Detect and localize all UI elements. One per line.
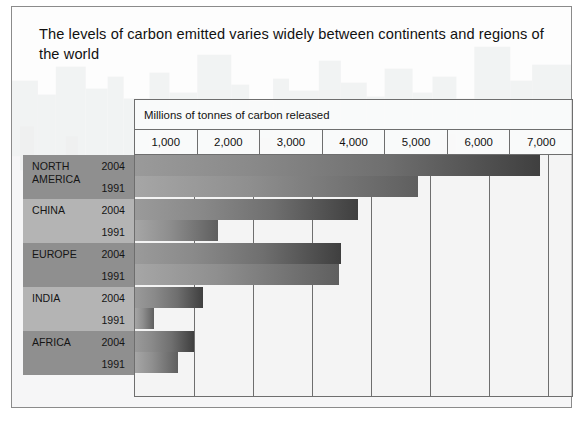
- bar-row-india-1991: [135, 308, 572, 329]
- row-label-africa: AFRICA 2004 1991: [23, 331, 134, 375]
- bar-row-europe-1991: [135, 264, 572, 285]
- row-label-column: NORTH AMERICA 2004 1991 CHINA 2004 1991 …: [23, 155, 134, 375]
- x-axis-label: Millions of tonnes of carbon released: [135, 109, 330, 121]
- plot-area: [134, 155, 573, 397]
- x-tick-5: 5,000: [384, 130, 447, 154]
- row-label-north-america: NORTH AMERICA 2004 1991: [23, 155, 134, 199]
- row-label-year-1991: 1991: [101, 182, 125, 194]
- bar-row-china-1991: [135, 220, 572, 241]
- row-label-china: CHINA 2004 1991: [23, 199, 134, 243]
- row-label-year-1991: 1991: [101, 358, 125, 370]
- chart-page: The levels of carbon emitted varies wide…: [0, 0, 583, 431]
- bar-row-africa-1991: [135, 352, 572, 373]
- bar-row-africa-2004: [135, 331, 572, 352]
- bar-north-america-2004: [135, 155, 540, 176]
- row-label-continent: AFRICA: [32, 336, 94, 349]
- row-label-year-1991: 1991: [101, 226, 125, 238]
- row-label-year-2004: 2004: [101, 204, 125, 216]
- bar-europe-2004: [135, 243, 341, 264]
- x-tick-1: 1,000: [135, 130, 197, 154]
- row-label-continent: INDIA: [32, 292, 94, 305]
- row-label-year-1991: 1991: [101, 270, 125, 282]
- row-label-year-1991: 1991: [101, 314, 125, 326]
- chart-container: Millions of tonnes of carbon released 1,…: [11, 99, 573, 397]
- bar-row-india-2004: [135, 287, 572, 308]
- bar-europe-1991: [135, 264, 339, 285]
- plot-body: NORTH AMERICA 2004 1991 CHINA 2004 1991 …: [11, 155, 573, 397]
- x-tick-2: 2,000: [197, 130, 260, 154]
- x-tick-7: 7,000: [509, 130, 572, 154]
- row-label-india: INDIA 2004 1991: [23, 287, 134, 331]
- bar-africa-1991: [135, 352, 178, 373]
- x-tick-3: 3,000: [259, 130, 322, 154]
- row-label-continent: CHINA: [32, 204, 94, 217]
- bar-row-north-america-2004: [135, 155, 572, 176]
- bar-row-europe-2004: [135, 243, 572, 264]
- x-tick-6: 6,000: [447, 130, 510, 154]
- row-label-year-2004: 2004: [101, 292, 125, 304]
- page-title: The levels of carbon emitted varies wide…: [39, 24, 564, 64]
- bar-rows: [135, 155, 572, 375]
- bar-row-china-2004: [135, 199, 572, 220]
- bar-row-north-america-1991: [135, 176, 572, 197]
- row-label-continent: EUROPE: [32, 248, 94, 261]
- x-tick-4: 4,000: [322, 130, 385, 154]
- row-label-europe: EUROPE 2004 1991: [23, 243, 134, 287]
- x-axis-tick-row: 1,000 2,000 3,000 4,000 5,000 6,000 7,00…: [134, 130, 573, 155]
- bar-north-america-1991: [135, 176, 418, 197]
- row-label-year-2004: 2004: [101, 336, 125, 348]
- bar-india-2004: [135, 287, 203, 308]
- row-label-year-2004: 2004: [101, 160, 125, 172]
- axis-title-box: Millions of tonnes of carbon released: [134, 99, 573, 130]
- bar-africa-2004: [135, 331, 194, 352]
- row-label-year-2004: 2004: [101, 248, 125, 260]
- bar-china-2004: [135, 199, 358, 220]
- bar-china-1991: [135, 220, 218, 241]
- bar-india-1991: [135, 308, 154, 329]
- row-label-continent: NORTH AMERICA: [32, 160, 94, 185]
